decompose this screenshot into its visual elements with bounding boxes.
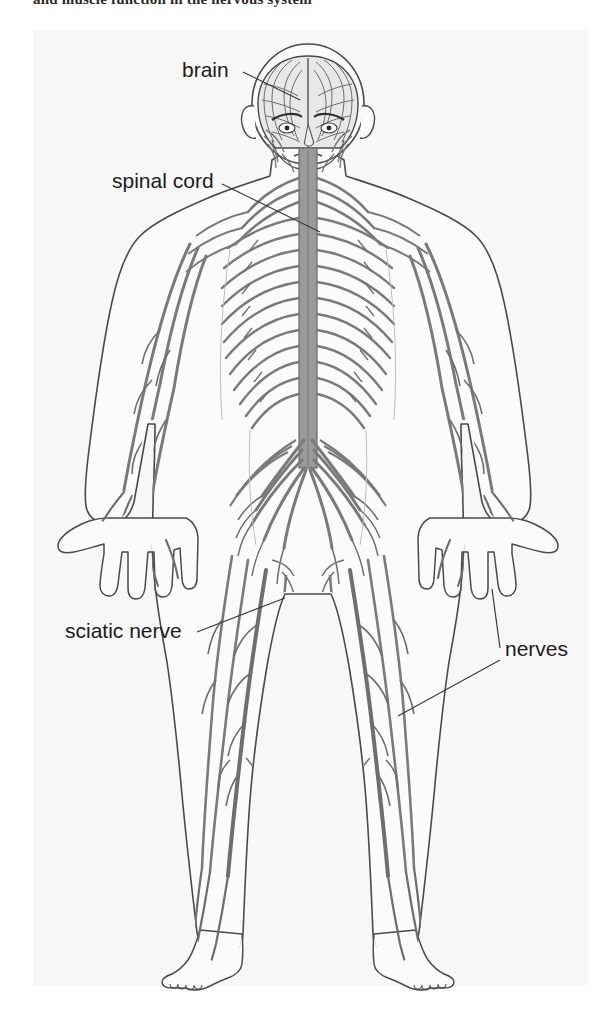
label-brain-text: brain [182,58,229,81]
right-ear-icon [360,106,375,139]
left-ear-icon [242,106,257,139]
label-nerves-leader-upper [492,589,500,648]
right-pupil [327,126,332,131]
label-spinal-cord-text: spinal cord [112,169,214,192]
label-nerves-text: nerves [505,637,568,660]
left-foot-outline [162,930,243,990]
left-pupil [285,126,290,131]
label-sciatic-nerve-text: sciatic nerve [65,619,182,642]
right-foot-outline [373,930,454,990]
nervous-system-figure: brain spinal cord sciatic nerve nerves [0,0,616,1015]
